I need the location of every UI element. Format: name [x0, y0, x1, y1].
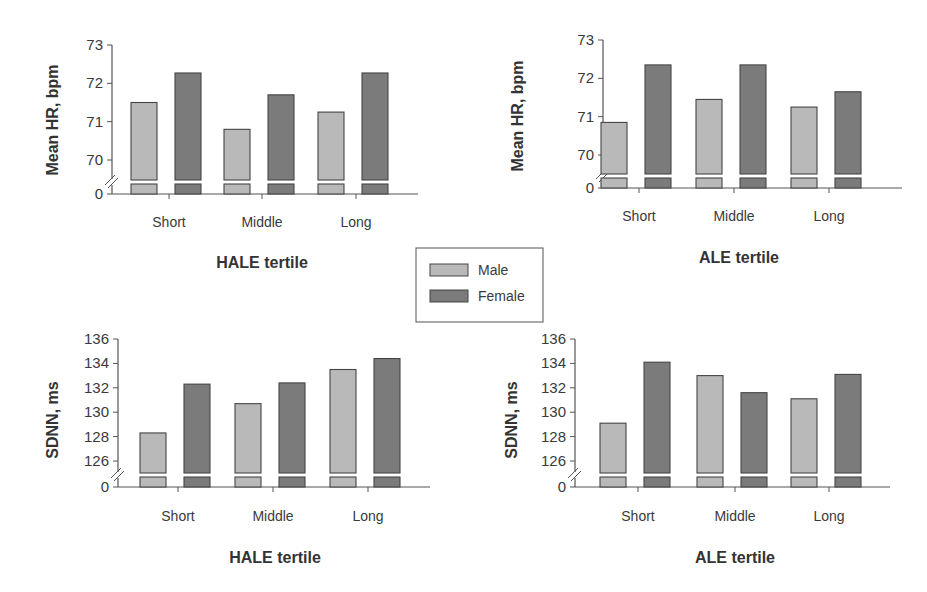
- x-category-label: Middle: [714, 508, 755, 524]
- y-tick-label: 70: [86, 151, 103, 168]
- bar-female: [740, 65, 766, 174]
- bar-female: [362, 73, 388, 180]
- bar-female: [175, 73, 201, 180]
- x-category-label: Long: [340, 214, 371, 230]
- y-tick-label: 70: [577, 146, 594, 163]
- x-axis-title: HALE tertile: [229, 549, 321, 566]
- x-category-label: Short: [622, 208, 656, 224]
- chart-panel-1: 070717273ShortMiddleLongMean HR, bpmHALE…: [44, 36, 418, 271]
- y-tick-label: 0: [95, 185, 103, 202]
- bar-male: [601, 122, 627, 174]
- y-tick-label: 0: [101, 478, 109, 495]
- bar-male-base: [140, 477, 166, 487]
- bar-female: [279, 383, 305, 473]
- bar-male: [696, 99, 722, 174]
- bar-female: [374, 359, 400, 473]
- legend-swatch-female: [430, 290, 468, 302]
- y-tick-label: 71: [86, 113, 103, 130]
- x-category-label: Long: [352, 508, 383, 524]
- bar-female-base: [644, 477, 670, 487]
- bar-female-base: [835, 178, 861, 188]
- bar-male: [600, 423, 626, 473]
- y-tick-label: 132: [84, 379, 109, 396]
- bar-female-base: [362, 184, 388, 194]
- y-tick-label: 0: [586, 179, 594, 196]
- bar-female-base: [279, 477, 305, 487]
- x-category-label: Middle: [252, 508, 293, 524]
- y-tick-label: 132: [541, 379, 566, 396]
- y-axis-title: Mean HR, bpm: [509, 60, 526, 171]
- bar-male-base: [791, 477, 817, 487]
- bar-male: [697, 376, 723, 473]
- bar-female: [184, 384, 210, 473]
- bar-male-base: [131, 184, 157, 194]
- y-tick-label: 130: [84, 403, 109, 420]
- y-tick-label: 0: [558, 478, 566, 495]
- bar-female-base: [374, 477, 400, 487]
- x-category-label: Long: [813, 208, 844, 224]
- y-axis-title: SDNN, ms: [503, 381, 520, 458]
- bar-female: [268, 95, 294, 180]
- bar-female: [835, 92, 861, 174]
- figure: 070717273ShortMiddleLongMean HR, bpmHALE…: [0, 0, 927, 592]
- bar-male-base: [791, 178, 817, 188]
- y-tick-label: 136: [84, 330, 109, 347]
- bar-male: [140, 433, 166, 473]
- bar-male: [131, 103, 157, 181]
- y-axis-title: SDNN, ms: [44, 381, 61, 458]
- x-category-label: Short: [621, 508, 655, 524]
- bar-male: [330, 370, 356, 474]
- chart-panel-4: 0126128130132134136ShortMiddleLongSDNN, …: [503, 330, 890, 566]
- bar-female: [645, 65, 671, 174]
- bar-female-base: [741, 477, 767, 487]
- x-axis-title: ALE tertile: [695, 549, 775, 566]
- y-tick-label: 128: [541, 428, 566, 445]
- chart-panel-3: 0126128130132134136ShortMiddleLongSDNN, …: [44, 330, 430, 566]
- legend-label-male: Male: [478, 262, 509, 278]
- x-category-label: Short: [152, 214, 186, 230]
- y-tick-label: 73: [86, 36, 103, 53]
- bar-female-base: [740, 178, 766, 188]
- legend-swatch-male: [430, 264, 468, 276]
- legend-label-female: Female: [478, 288, 525, 304]
- y-tick-label: 71: [577, 108, 594, 125]
- x-category-label: Middle: [713, 208, 754, 224]
- y-tick-label: 134: [541, 354, 566, 371]
- y-tick-label: 72: [577, 69, 594, 86]
- x-axis-title: HALE tertile: [216, 254, 308, 271]
- bar-female: [741, 393, 767, 473]
- y-axis-title: Mean HR, bpm: [44, 64, 61, 175]
- y-tick-label: 72: [86, 74, 103, 91]
- bar-female-base: [184, 477, 210, 487]
- y-tick-label: 126: [541, 452, 566, 469]
- bar-female-base: [645, 178, 671, 188]
- bar-male-base: [696, 178, 722, 188]
- y-tick-label: 134: [84, 354, 109, 371]
- bar-male: [224, 129, 250, 180]
- bar-female-base: [175, 184, 201, 194]
- x-axis-title: ALE tertile: [699, 249, 779, 266]
- y-tick-label: 126: [84, 452, 109, 469]
- legend-box: [416, 248, 543, 322]
- bar-male-base: [235, 477, 261, 487]
- bar-female-base: [835, 477, 861, 487]
- bar-male-base: [318, 184, 344, 194]
- y-tick-label: 73: [577, 31, 594, 48]
- bar-male-base: [697, 477, 723, 487]
- y-tick-label: 128: [84, 428, 109, 445]
- bar-male: [791, 107, 817, 174]
- x-category-label: Long: [813, 508, 844, 524]
- bar-male: [235, 404, 261, 473]
- bar-male: [318, 112, 344, 180]
- bar-male-base: [601, 178, 627, 188]
- bar-female-base: [268, 184, 294, 194]
- x-category-label: Middle: [241, 214, 282, 230]
- bar-male: [791, 399, 817, 473]
- x-category-label: Short: [161, 508, 195, 524]
- chart-panel-2: 070717273ShortMiddleLongMean HR, bpmALE …: [509, 31, 902, 266]
- bar-female: [644, 362, 670, 473]
- bar-male-base: [600, 477, 626, 487]
- bar-male-base: [224, 184, 250, 194]
- bar-male-base: [330, 477, 356, 487]
- y-tick-label: 130: [541, 403, 566, 420]
